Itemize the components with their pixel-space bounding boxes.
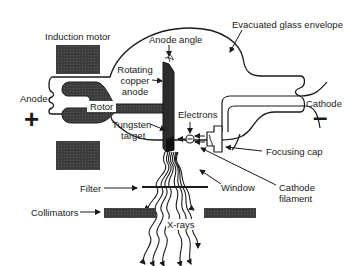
label-filter: Filter (80, 183, 101, 194)
xray-tube-diagram: Induction motor Anode angle Evacuated gl… (0, 0, 361, 266)
label-cathode-filament: Cathode filament (279, 182, 315, 204)
arrow-cathode-filament (201, 148, 276, 185)
label-anode: Anode (20, 93, 47, 104)
label-electrons: Electrons (178, 109, 218, 120)
cathode-lead-bottom (228, 106, 320, 132)
label-focusing-cap: Focusing cap (266, 146, 323, 157)
cathode-minus-sign: – (313, 104, 327, 130)
label-collimators: Collimators (31, 207, 79, 218)
label-rotating-copper-anode: Rotating copper anode (113, 64, 157, 97)
label-anode-angle: Anode angle (149, 34, 202, 45)
label-x-rays: X-rays (166, 219, 195, 230)
label-tungsten-target: Tungsten target (112, 119, 151, 141)
label-evacuated-glass-envelope: Evacuated glass envelope (232, 19, 343, 30)
arrow-focusing-cap (226, 147, 262, 151)
collimator-left (104, 208, 156, 218)
arrow-window (200, 170, 221, 184)
induction-motor-block-top (56, 45, 100, 74)
anode-plus-sign: + (24, 106, 39, 132)
label-rotor: Rotor (87, 101, 116, 112)
label-window: Window (221, 182, 255, 193)
collimator-right (204, 208, 256, 218)
label-induction-motor: Induction motor (45, 31, 110, 42)
induction-motor-block-bottom (56, 141, 100, 170)
focusing-cap (207, 126, 222, 152)
